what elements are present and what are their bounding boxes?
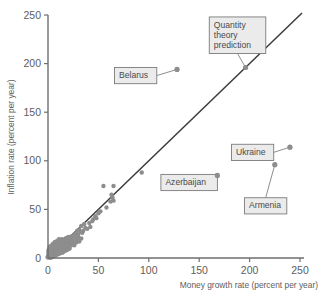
annotation-callouts: BelarusQuantitytheorypredictionAzerbaija… xyxy=(115,17,293,214)
callout-label: Ukraine xyxy=(236,147,266,157)
callout-ukraine[interactable]: Ukraine xyxy=(231,144,292,160)
annotated-data-point xyxy=(215,173,220,178)
callout-label: Armenia xyxy=(249,200,281,210)
data-point xyxy=(67,235,72,240)
data-point xyxy=(76,235,80,239)
callout-quantity-theory-prediction[interactable]: Quantitytheoryprediction xyxy=(209,17,266,70)
data-point xyxy=(111,184,115,188)
data-point xyxy=(79,224,83,228)
y-tick-label: 150 xyxy=(23,106,41,118)
callout-label: Quantity xyxy=(214,20,247,30)
data-point xyxy=(98,209,102,213)
x-tick-label: 250 xyxy=(291,264,309,276)
y-tick-label: 100 xyxy=(23,154,41,166)
data-point xyxy=(88,225,92,229)
data-point xyxy=(101,184,105,188)
y-axis-label: Inflation rate (percent per year) xyxy=(6,79,16,194)
y-tick-label: 50 xyxy=(29,203,41,215)
data-point xyxy=(87,221,91,225)
callout-leader-line xyxy=(157,69,177,75)
data-point xyxy=(108,199,112,203)
callout-leader-line xyxy=(266,165,275,198)
figure-container: 050100150200250050100150200250 BelarusQu… xyxy=(0,0,327,298)
x-tick-label: 0 xyxy=(45,264,51,276)
annotated-data-point xyxy=(287,145,292,150)
y-tick-label: 0 xyxy=(35,252,41,264)
data-point xyxy=(56,237,61,242)
y-tick-label: 250 xyxy=(23,9,41,21)
y-tick-label: 200 xyxy=(23,57,41,69)
callout-label: Belarus xyxy=(119,70,148,80)
annotated-data-point xyxy=(174,67,179,72)
annotated-data-point xyxy=(272,162,277,167)
callout-belarus[interactable]: Belarus xyxy=(115,67,180,84)
data-point xyxy=(104,205,108,209)
data-points xyxy=(45,67,292,259)
callout-azerbaijan[interactable]: Azerbaijan xyxy=(161,173,220,191)
x-tick-label: 150 xyxy=(190,264,208,276)
annotated-data-point xyxy=(243,65,248,70)
data-point xyxy=(140,170,144,174)
x-axis-label: Money growth rate (percent per year) xyxy=(180,280,318,290)
x-tick-label: 100 xyxy=(140,264,158,276)
scatter-chart: 050100150200250050100150200250 BelarusQu… xyxy=(0,0,327,298)
callout-label: Azerbaijan xyxy=(165,177,206,187)
callout-label: theory xyxy=(214,30,239,40)
callout-label: prediction xyxy=(214,40,251,50)
data-point xyxy=(94,216,98,220)
data-point xyxy=(48,244,53,249)
x-tick-label: 200 xyxy=(241,264,259,276)
x-tick-label: 50 xyxy=(93,264,105,276)
callout-armenia[interactable]: Armenia xyxy=(245,162,287,214)
